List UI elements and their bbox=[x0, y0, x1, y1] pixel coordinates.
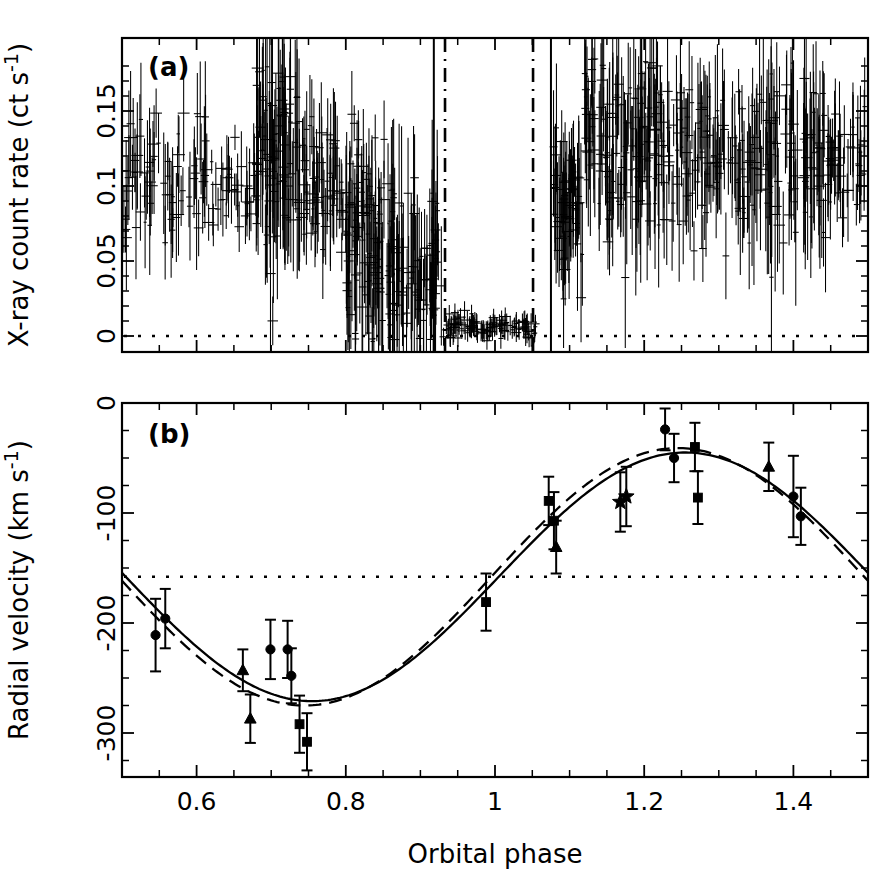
rv-data-point bbox=[689, 423, 700, 471]
panel-a-label: (a) bbox=[148, 52, 189, 82]
panel-a-ytick-label: 0 bbox=[92, 328, 121, 344]
marker-square bbox=[303, 737, 312, 746]
figure-root: 0.60.811.21.400.050.10.150-100-200-300(a… bbox=[0, 0, 893, 884]
xtick-label: 1.4 bbox=[774, 787, 814, 816]
xray-segment bbox=[118, 61, 214, 290]
xray-segment bbox=[656, 28, 750, 299]
marker-circle bbox=[287, 671, 296, 680]
xray-segment bbox=[252, 0, 305, 358]
marker-circle bbox=[151, 631, 160, 640]
rv-data-point bbox=[265, 620, 276, 679]
rv-data-point bbox=[692, 471, 703, 524]
panel-b-axis-title: Radial velocity (km s-1) bbox=[0, 440, 34, 740]
panel-b-label: (b) bbox=[148, 419, 190, 449]
panel-a-ytick-label: 0.1 bbox=[92, 166, 121, 206]
panel-a-data-layer bbox=[118, 0, 869, 418]
rv-data-point bbox=[669, 434, 680, 482]
rv-data-point bbox=[550, 521, 562, 574]
panel-b-data-layer bbox=[122, 409, 868, 771]
rv-data-point bbox=[245, 695, 257, 743]
xray-segment bbox=[208, 123, 261, 252]
x-axis-title: Orbital phase bbox=[408, 839, 583, 869]
rv-data-point bbox=[150, 599, 161, 672]
panel-a-ytick-label: 0.15 bbox=[92, 83, 121, 139]
xtick-label: 1.2 bbox=[624, 787, 664, 816]
marker-circle bbox=[669, 453, 678, 462]
marker-triangle bbox=[245, 713, 257, 724]
rv-data-point bbox=[660, 409, 671, 451]
marker-triangle bbox=[237, 664, 249, 675]
marker-triangle bbox=[550, 541, 562, 552]
marker-circle bbox=[266, 645, 275, 654]
xray-segment bbox=[581, 0, 663, 348]
panel-b-ytick-label: 0 bbox=[92, 395, 121, 411]
marker-circle bbox=[789, 492, 798, 501]
marker-circle bbox=[161, 614, 170, 623]
marker-square bbox=[482, 598, 491, 607]
panel-b-ytick-label: -300 bbox=[92, 705, 121, 762]
marker-square bbox=[691, 443, 700, 452]
xtick-label: 1 bbox=[487, 787, 503, 816]
rv-data-point bbox=[481, 574, 492, 631]
marker-circle bbox=[660, 425, 669, 434]
marker-square bbox=[295, 720, 304, 729]
panel-a-ytick-label: 0.05 bbox=[92, 233, 121, 289]
two-panel-figure: 0.60.811.21.400.050.10.150-100-200-300(a… bbox=[0, 0, 893, 884]
panel-a-axis-title: X-ray count rate (ct s-1) bbox=[0, 43, 34, 347]
rv-data-point bbox=[788, 456, 799, 537]
panel-b-ytick-label: -100 bbox=[92, 485, 121, 542]
xray-segment bbox=[818, 57, 869, 292]
xtick-label: 0.6 bbox=[177, 787, 217, 816]
marker-triangle bbox=[763, 461, 775, 472]
marker-circle bbox=[796, 512, 805, 521]
xray-segment bbox=[550, 64, 586, 348]
marker-square bbox=[544, 497, 553, 506]
xtick-label: 0.8 bbox=[326, 787, 366, 816]
rv-data-point bbox=[160, 589, 171, 648]
xray-segment bbox=[440, 301, 540, 349]
marker-square bbox=[694, 493, 703, 502]
panel-b-frame bbox=[122, 403, 868, 777]
panel-b-ytick-label: -200 bbox=[92, 595, 121, 652]
xray-segment bbox=[743, 0, 827, 357]
xray-segment bbox=[296, 75, 341, 299]
